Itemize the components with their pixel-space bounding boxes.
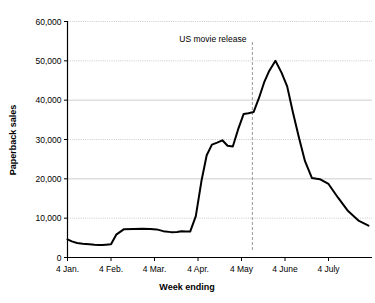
y-tick-label: 60,000 bbox=[36, 17, 62, 27]
x-axis-tick-labels-group: 4 Jan.4 Feb.4 Mar.4 Apr.4 May4 June4 Jul… bbox=[56, 264, 340, 274]
x-tick-label: 4 Feb. bbox=[99, 264, 123, 274]
x-tick-label: 4 Jan. bbox=[56, 264, 79, 274]
paperback-sales-chart: 010,00020,00030,00040,00050,00060,000 4 … bbox=[0, 0, 375, 303]
annotation-label: US movie release bbox=[179, 34, 246, 44]
y-tick-label: 10,000 bbox=[36, 213, 62, 223]
annotations-group: US movie release bbox=[179, 34, 252, 250]
y-tick-label: 0 bbox=[57, 253, 62, 263]
x-tick-label: 4 June bbox=[272, 264, 298, 274]
x-tick-label: 4 Apr. bbox=[187, 264, 209, 274]
x-axis-title: Week ending bbox=[159, 282, 214, 292]
y-tick-label: 40,000 bbox=[36, 95, 62, 105]
x-tick-label: 4 July bbox=[317, 264, 340, 274]
x-tick-label: 4 Mar. bbox=[143, 264, 167, 274]
x-tick-label: 4 May bbox=[230, 264, 254, 274]
sales-series-line bbox=[68, 61, 369, 245]
y-axis-title: Paperback sales bbox=[8, 105, 18, 176]
y-tick-label: 30,000 bbox=[36, 135, 62, 145]
gridlines-group bbox=[68, 22, 373, 219]
y-tick-label: 20,000 bbox=[36, 174, 62, 184]
y-axis-tick-labels-group: 010,00020,00030,00040,00050,00060,000 bbox=[36, 17, 62, 263]
y-tick-label: 50,000 bbox=[36, 56, 62, 66]
chart-canvas: 010,00020,00030,00040,00050,00060,000 4 … bbox=[0, 0, 375, 303]
